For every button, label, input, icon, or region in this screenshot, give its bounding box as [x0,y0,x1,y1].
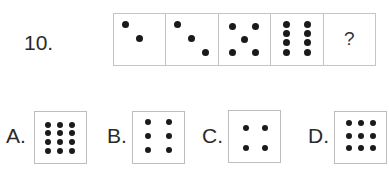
dot-icon [252,49,259,56]
dot-icon [145,119,152,126]
dot-icon [358,145,365,152]
dot-icon [283,39,290,46]
dot-icon [370,120,377,127]
dot-icon [69,130,76,137]
dot-icon [45,139,52,146]
dot-icon [136,35,143,42]
dot-icon [283,30,290,37]
dot-icon [229,23,236,30]
option-c[interactable] [228,110,281,163]
dot-icon [262,145,269,152]
dot-icon [45,130,52,137]
sequence-cell-3 [219,14,271,65]
dot-icon [57,139,64,146]
dot-icon [45,148,52,155]
dot-icon [304,49,311,56]
dot-icon [346,145,353,152]
sequence-cell-4 [271,14,323,65]
dot-icon [252,23,259,30]
option-b[interactable] [132,111,185,164]
dot-icon [166,119,173,126]
dot-icon [122,21,129,28]
dot-icon [358,120,365,127]
question-mark: ? [324,27,375,51]
sequence-strip: ? [113,13,376,66]
dot-icon [229,49,236,56]
dot-icon [174,21,181,28]
dot-icon [370,145,377,152]
dot-icon [346,133,353,140]
sequence-cell-2 [166,14,218,65]
dot-icon [166,133,173,140]
dot-icon [283,49,290,56]
option-b-label: B. [107,123,127,149]
dot-icon [262,125,269,132]
dot-icon [145,133,152,140]
dot-icon [358,133,365,140]
sequence-cell-1 [114,14,166,65]
dot-icon [57,122,64,129]
sequence-cell-missing: ? [324,14,375,65]
dot-icon [243,125,250,132]
dot-icon [283,21,290,28]
dot-icon [241,36,248,43]
dot-icon [202,49,209,56]
dot-icon [243,145,250,152]
dot-icon [188,35,195,42]
option-c-label: C. [202,123,223,149]
option-a[interactable] [34,111,87,164]
option-a-label: A. [6,123,26,149]
dot-icon [370,133,377,140]
dot-icon [57,148,64,155]
option-d[interactable] [334,111,387,164]
dot-icon [304,30,311,37]
option-d-label: D. [308,123,329,149]
dot-icon [57,130,64,137]
question-number: 10. [24,30,53,56]
dot-icon [166,147,173,154]
dot-icon [69,139,76,146]
dot-icon [304,21,311,28]
dot-icon [346,120,353,127]
dot-icon [304,39,311,46]
dot-icon [145,147,152,154]
dot-icon [69,148,76,155]
dot-icon [45,122,52,129]
dot-icon [69,122,76,129]
